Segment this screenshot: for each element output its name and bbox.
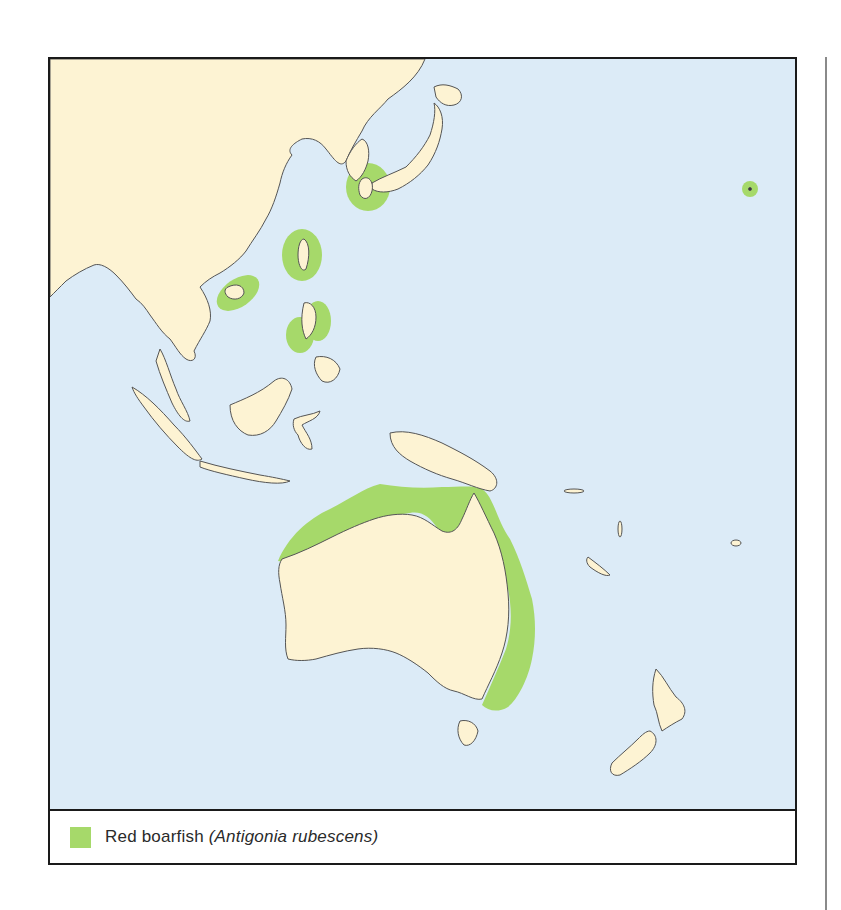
- distribution-map: [50, 59, 795, 809]
- legend-swatch: [70, 827, 91, 848]
- map-frame: Red boarfish (Antigonia rubescens): [48, 57, 797, 865]
- legend-label: Red boarfish (Antigonia rubescens): [105, 827, 378, 847]
- page-margin-rule: [825, 57, 827, 910]
- legend-scientific-name: (Antigonia rubescens): [209, 827, 379, 846]
- land-fiji: [731, 540, 741, 546]
- land-solomons: [564, 489, 584, 493]
- land-hainan: [225, 285, 244, 299]
- legend-common-name: Red boarfish: [105, 827, 209, 846]
- legend: Red boarfish (Antigonia rubescens): [50, 809, 795, 863]
- land-taiwan: [298, 239, 309, 270]
- land-vanuatu: [618, 521, 622, 537]
- land-japan-kyushu: [359, 178, 373, 199]
- land-hawaii: [749, 188, 752, 191]
